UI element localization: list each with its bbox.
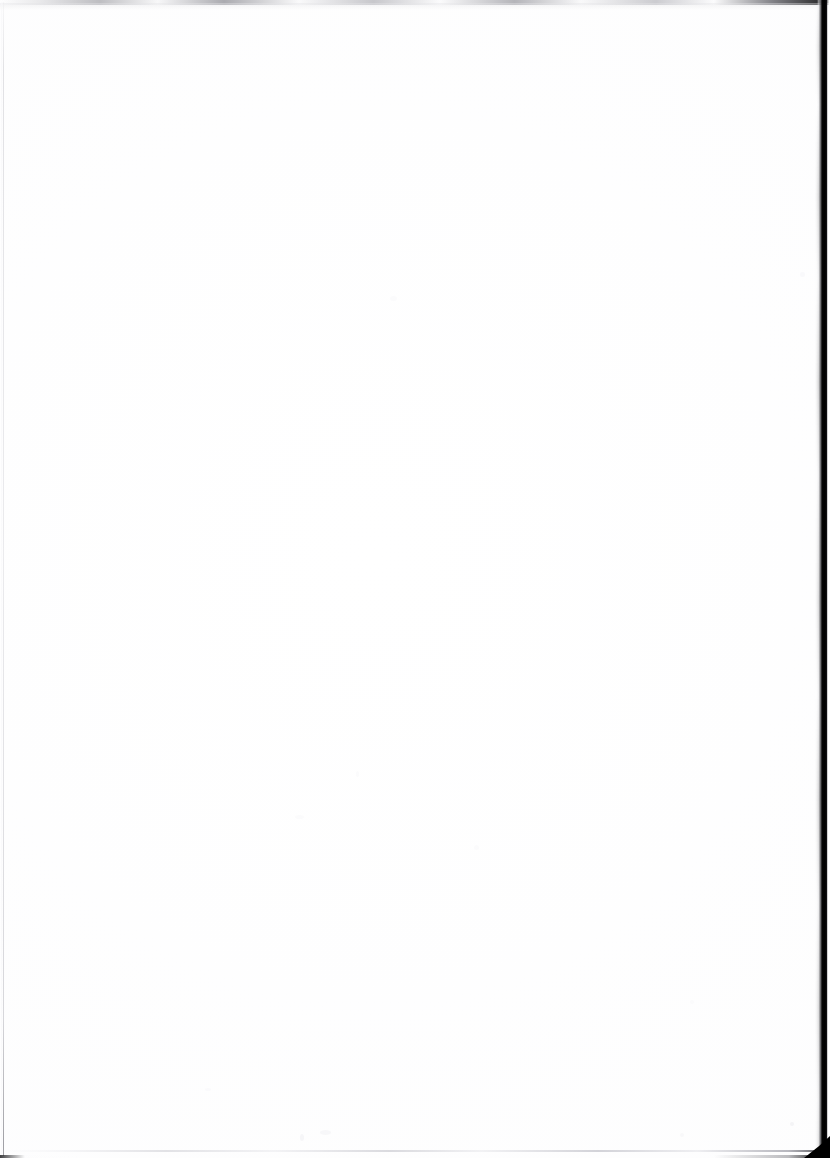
right-edge-scan-shadow-wobble (815, 0, 822, 1158)
top-edge-scan-falloff (0, 3, 830, 10)
left-edge-rule (3, 2, 4, 1156)
paper-tone-vignette (0, 0, 830, 1158)
paper-field (0, 0, 830, 1158)
bottom-edge-rule (0, 1150, 830, 1152)
scanned-page (0, 0, 830, 1158)
